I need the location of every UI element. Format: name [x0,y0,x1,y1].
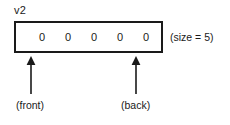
element-cell: 0 [55,31,81,43]
front-pointer-arrow [24,56,38,94]
element-cell: 0 [133,31,159,43]
element-list: 0 0 0 0 0 [16,23,161,51]
size-annotation: (size = 5) [170,31,213,43]
arrow-up-icon [129,56,143,94]
arrow-up-icon [24,56,38,94]
element-cell: 0 [107,31,133,43]
front-pointer-label: (front) [16,99,44,111]
vector-diagram: v2 0 0 0 0 0 (size = 5) (front) [0,0,230,125]
element-cell: 0 [29,31,55,43]
element-cell: 0 [81,31,107,43]
container-box: 0 0 0 0 0 [14,21,163,53]
back-pointer-arrow [129,56,143,94]
back-pointer-label: (back) [121,99,150,111]
variable-name-label: v2 [14,4,26,16]
